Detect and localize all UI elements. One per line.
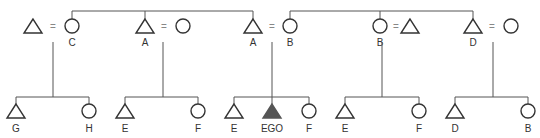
descent-line — [455, 42, 528, 104]
label-e: E — [342, 123, 349, 134]
label-f: F — [306, 123, 312, 134]
male-symbol — [401, 19, 419, 33]
marriage-sign: = — [161, 21, 167, 32]
label-a: A — [250, 37, 257, 48]
label-a: A — [142, 37, 149, 48]
marriage-sign: = — [269, 21, 275, 32]
label-h: H — [85, 123, 92, 134]
female-symbol — [302, 104, 316, 118]
label-b: B — [377, 37, 384, 48]
sibling-bar-right — [290, 11, 473, 19]
female-symbol — [373, 19, 387, 33]
label-c: C — [68, 37, 75, 48]
female-symbol — [283, 19, 297, 33]
marriage-sign: = — [393, 21, 399, 32]
male-symbol — [225, 104, 243, 118]
label-e: E — [122, 123, 129, 134]
female-symbol — [521, 104, 535, 118]
label-f: F — [195, 123, 201, 134]
male-symbol — [244, 19, 262, 33]
marriage-sign: = — [489, 21, 495, 32]
label-e: E — [231, 123, 238, 134]
descent-line — [345, 42, 419, 104]
label-d: D — [469, 37, 476, 48]
female-symbol — [65, 19, 79, 33]
male-symbol — [336, 104, 354, 118]
male-symbol — [446, 104, 464, 118]
female-symbol — [191, 104, 205, 118]
female-symbol — [176, 19, 190, 33]
descent-line — [16, 42, 89, 104]
female-symbol — [82, 104, 96, 118]
male-symbol — [7, 104, 25, 118]
male-symbol — [116, 104, 134, 118]
female-symbol — [412, 104, 426, 118]
male-symbol — [136, 19, 154, 33]
label-ego: EGO — [261, 123, 283, 134]
label-g: G — [12, 123, 20, 134]
descent-line — [234, 42, 309, 104]
label-d: D — [451, 123, 458, 134]
label-b: B — [525, 123, 532, 134]
sibling-bar-left — [72, 11, 253, 19]
male-symbol — [24, 19, 42, 33]
descent-line — [125, 42, 198, 104]
ego-symbol — [263, 104, 281, 118]
kinship-diagram: = C A = A = B B = D = G H E F E — [0, 0, 540, 138]
label-b: B — [287, 37, 294, 48]
female-symbol — [504, 19, 518, 33]
male-symbol — [464, 19, 482, 33]
label-f: F — [416, 123, 422, 134]
marriage-sign: = — [50, 21, 56, 32]
